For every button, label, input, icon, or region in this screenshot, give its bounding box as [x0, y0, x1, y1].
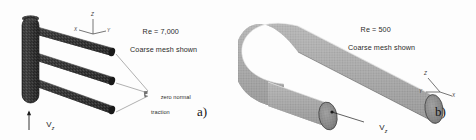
panel-b-mesh-note: Coarse mesh shown	[348, 43, 415, 52]
panel-a-reynolds-number: Re = 7,000	[143, 27, 179, 36]
panel-b-reynolds-number: Re = 500	[361, 25, 391, 34]
axis-triad-a	[79, 19, 106, 34]
panel-a-subfigure-label: a)	[197, 104, 207, 120]
panel-a-axis-z-label: Z	[91, 12, 94, 18]
panel-b-axis-x-label: X	[452, 93, 455, 99]
figure-container: Re = 7,000 Coarse mesh shown zero normal…	[0, 0, 476, 140]
panel-a-axis-y-label: Y	[107, 28, 110, 34]
zero-normal-traction-label: zero normal traction	[151, 87, 191, 131]
panel-b: Re = 500 Coarse mesh shown Vz Z Y X b)	[238, 0, 476, 140]
panel-b-conditions: Re = 500 Coarse mesh shown	[348, 16, 415, 70]
manifold-header-pipe	[22, 15, 39, 103]
bc-label-line-2: traction	[151, 109, 191, 116]
inlet-velocity-arrow	[27, 111, 31, 131]
panel-a-velocity-subscript: z	[52, 125, 55, 131]
bc-label-line-1: zero normal	[161, 94, 191, 100]
panel-b-velocity-subscript: z	[385, 128, 388, 134]
panel-a-velocity-label: Vz	[33, 110, 54, 140]
panel-a-mesh-note: Coarse mesh shown	[130, 45, 197, 54]
panel-a-conditions: Re = 7,000 Coarse mesh shown	[130, 18, 197, 72]
panel-b-axis-z-label: Z	[424, 71, 427, 77]
panel-b-velocity-label: Vz	[366, 113, 387, 140]
panel-b-subfigure-label: b)	[435, 104, 446, 120]
panel-b-axis-y-label: Y	[419, 89, 422, 95]
panel-a-axis-x-label: X	[74, 27, 77, 33]
manifold-branch-pipes	[34, 26, 116, 115]
branch-pipe-2	[34, 52, 116, 86]
panel-a: Re = 7,000 Coarse mesh shown zero normal…	[0, 0, 238, 140]
